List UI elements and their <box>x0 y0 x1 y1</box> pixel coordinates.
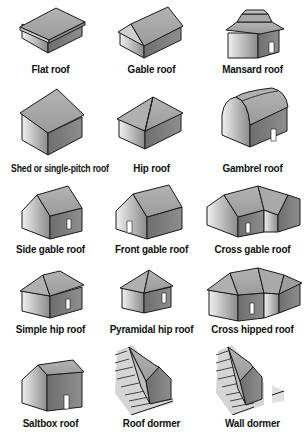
label-mansard-roof: Mansard roof <box>209 63 296 75</box>
label-shed-roof: Shed or single-pitch roof <box>11 162 90 174</box>
saltbox-roof-icon <box>0 343 101 413</box>
label-side-gable-roof: Side gable roof <box>7 243 94 255</box>
cross-gable-roof-icon <box>202 177 303 243</box>
item-saltbox-roof: Saltbox roof <box>0 343 101 439</box>
label-cross-gable-roof: Cross gable roof <box>209 243 296 255</box>
label-simple-hip-roof: Simple hip roof <box>7 323 94 335</box>
label-front-gable-roof: Front gable roof <box>108 243 195 255</box>
item-cross-gable-roof: Cross gable roof <box>202 177 303 263</box>
item-gambrel-roof: Gambrel roof <box>202 85 303 177</box>
pyramidal-hip-roof-icon <box>101 263 202 323</box>
item-mansard-roof: Mansard roof <box>202 0 303 85</box>
label-gambrel-roof: Gambrel roof <box>209 162 296 174</box>
label-roof-dormer: Roof dormer <box>108 417 195 429</box>
label-saltbox-roof: Saltbox roof <box>7 417 94 429</box>
roof-dormer-icon <box>101 343 202 415</box>
item-hip-roof: Hip roof <box>101 85 202 177</box>
side-gable-roof-icon <box>0 177 101 243</box>
label-pyramidal-hip-roof: Pyramidal hip roof <box>108 323 195 335</box>
item-pyramidal-hip-roof: Pyramidal hip roof <box>101 263 202 343</box>
item-flat-roof: Flat roof <box>0 0 101 85</box>
item-cross-hipped-roof: Cross hipped roof <box>202 263 303 343</box>
hip-roof-icon <box>101 85 202 157</box>
item-gable-roof: Gable roof <box>101 0 202 85</box>
simple-hip-roof-icon <box>0 263 101 323</box>
mansard-roof-icon <box>202 0 303 62</box>
label-cross-hipped-roof: Cross hipped roof <box>209 323 296 335</box>
front-gable-roof-icon <box>101 177 202 243</box>
gambrel-roof-icon <box>202 85 303 157</box>
item-roof-dormer: Roof dormer <box>101 343 202 439</box>
flat-roof-icon <box>0 0 101 62</box>
item-simple-hip-roof: Simple hip roof <box>0 263 101 343</box>
wall-dormer-icon <box>202 343 303 415</box>
item-front-gable-roof: Front gable roof <box>101 177 202 263</box>
item-side-gable-roof: Side gable roof <box>0 177 101 263</box>
item-shed-roof: Shed or single-pitch roof <box>0 85 101 177</box>
item-wall-dormer: Wall dormer <box>202 343 303 439</box>
cross-hipped-roof-icon <box>202 263 303 323</box>
shed-roof-icon <box>0 85 101 157</box>
label-flat-roof: Flat roof <box>7 63 94 75</box>
label-gable-roof: Gable roof <box>108 63 195 75</box>
label-wall-dormer: Wall dormer <box>209 417 296 429</box>
gable-roof-icon <box>101 0 202 62</box>
label-hip-roof: Hip roof <box>108 162 195 174</box>
